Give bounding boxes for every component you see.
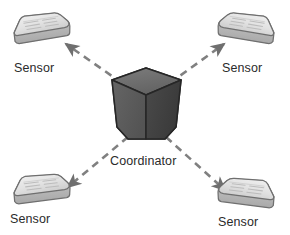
sensor-label-top-right: Sensor	[222, 62, 262, 75]
coordinator-label: Coordinator	[110, 155, 176, 168]
sensor-node-top-right[interactable]	[217, 11, 276, 44]
sensor-node-bottom-right[interactable]	[217, 177, 275, 208]
diagram-canvas	[0, 0, 290, 235]
network-diagram: Sensor Sensor Sensor Sensor Coordinator	[0, 0, 290, 235]
link-coordinator-sensor-top-right	[170, 44, 224, 83]
sensor-node-top-left[interactable]	[12, 11, 71, 44]
sensor-label-bottom-right: Sensor	[218, 216, 258, 229]
sensor-label-bottom-left: Sensor	[10, 213, 50, 226]
link-coordinator-sensor-top-left	[66, 44, 122, 83]
sensor-label-top-left: Sensor	[14, 62, 54, 75]
sensor-node-bottom-left[interactable]	[13, 173, 71, 204]
coordinator-node[interactable]	[112, 68, 181, 139]
